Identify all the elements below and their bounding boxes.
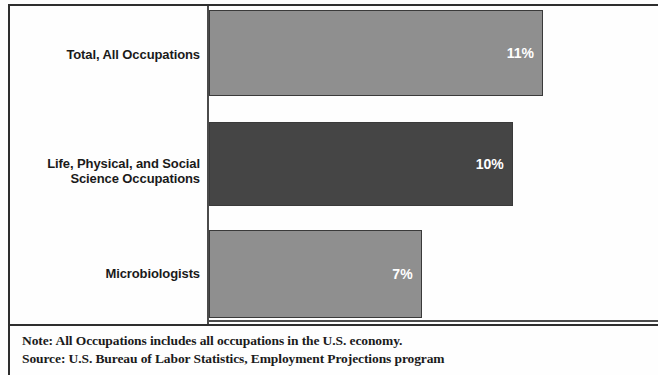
bar-total-all-occupations: 11%	[209, 10, 543, 96]
bar-category-label: Life, Physical, and Social Science Occup…	[18, 156, 200, 186]
bar-row: Microbiologists 7%	[0, 224, 658, 324]
bar-value-label: 7%	[392, 266, 412, 282]
bar-row: Life, Physical, and Social Science Occup…	[0, 112, 658, 222]
bar-category-label-line1: Life, Physical, and Social	[47, 156, 200, 171]
bar-category-label-line1: Microbiologists	[105, 266, 200, 281]
footer-note: Note: All Occupations includes all occup…	[22, 332, 652, 350]
bar-category-label-line1: Total, All Occupations	[66, 47, 200, 62]
bar-life-physical-social-science-occupations: 10%	[209, 122, 513, 206]
bar-category-label: Total, All Occupations	[18, 47, 200, 62]
bar-value-label: 10%	[476, 156, 504, 172]
figure-container: Total, All Occupations 11% Life, Physica…	[0, 0, 658, 375]
chart-footer: Note: All Occupations includes all occup…	[22, 332, 652, 368]
footer-divider-line	[9, 324, 658, 326]
bar-category-label-line2: Science Occupations	[70, 171, 200, 186]
bar-microbiologists: 7%	[209, 230, 422, 318]
bar-value-label: 11%	[507, 45, 534, 61]
bar-row: Total, All Occupations 11%	[0, 0, 658, 110]
footer-source: Source: U.S. Bureau of Labor Statistics,…	[22, 350, 652, 368]
bar-category-label: Microbiologists	[18, 266, 200, 281]
